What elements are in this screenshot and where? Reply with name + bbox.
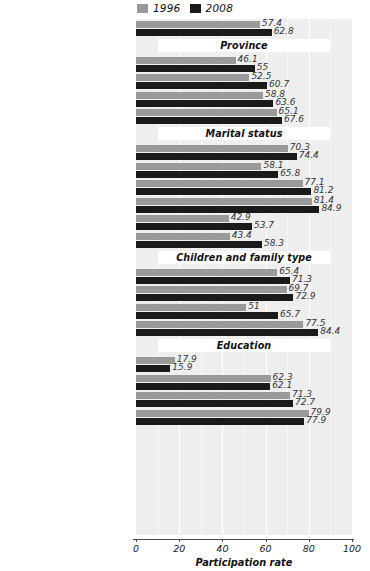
axis-tick-label: 20 <box>173 543 185 554</box>
legend-swatch-icon <box>190 4 201 13</box>
bar-row: Married, aged 45 and over42.953.7 <box>136 215 352 231</box>
section-header-box: Children and family type <box>158 251 330 264</box>
bar-1996 <box>136 269 277 276</box>
bar-row: Single, aged 25–4481.484.9 <box>136 198 352 214</box>
bar-value-label: 51 <box>248 303 259 310</box>
section-header-box: Province <box>158 39 330 52</box>
section-title: Education <box>217 340 272 351</box>
axis-tick <box>136 539 137 542</box>
bar-2008 <box>136 188 311 195</box>
bar-2008 <box>136 365 170 372</box>
bar-row: Single, aged 15–2458.165.8 <box>136 163 352 179</box>
bar-1996 <box>136 57 236 64</box>
section-header-box: Marital status <box>158 127 330 140</box>
bar-1996 <box>136 21 260 28</box>
legend-label: 1996 <box>153 2 181 14</box>
bar-value-label: 58.3 <box>264 240 284 247</box>
bar-value-label: 65.7 <box>280 311 300 318</box>
bar-row: College diploma/certificate71.372.7 <box>136 392 352 408</box>
bar-value-label: 74.4 <box>299 152 319 159</box>
bar-1996 <box>136 163 261 170</box>
axis-tick-label: 80 <box>303 543 315 554</box>
section-header-band: Education <box>136 339 352 352</box>
bar-value-label: 72.7 <box>295 399 315 406</box>
axis-tick <box>352 539 353 542</box>
bar-1996 <box>136 375 271 382</box>
chart-legend: 19962008 <box>0 1 370 15</box>
bar-1996 <box>136 410 309 417</box>
bar-1996 <box>136 321 303 328</box>
bar-2008 <box>136 206 319 213</box>
legend-entry-1996: 1996 <box>137 2 181 14</box>
bar-2008 <box>136 82 267 89</box>
bar-1996 <box>136 198 312 205</box>
bar-1996 <box>136 233 230 240</box>
bar-2008 <box>136 65 255 72</box>
bar-row: Married, aged 15–2470.374.4 <box>136 145 352 161</box>
axis-tick-label: 60 <box>260 543 272 554</box>
section-title: Marital status <box>205 128 282 139</box>
bar-row: New Brunswick52.560.7 <box>136 74 352 90</box>
bar-1996 <box>136 145 288 152</box>
section-title: Province <box>220 40 267 51</box>
participation-rate-chart: 19962008 All women 15 years and over57.4… <box>0 0 370 571</box>
bar-1996 <box>136 180 303 187</box>
bar-1996 <box>136 74 249 81</box>
bar-row: Children 6–1577.584.4 <box>136 321 352 337</box>
axis-tick-label: 40 <box>216 543 228 554</box>
bar-2008 <box>136 153 297 160</box>
bar-2008 <box>136 329 318 336</box>
bar-value-label: 81.2 <box>313 187 333 194</box>
bar-value-label: 43.4 <box>232 232 252 239</box>
section-header-box: Education <box>158 339 330 352</box>
legend-entry-2008: 2008 <box>190 2 234 14</box>
section-header-band: Children and family type <box>136 251 352 264</box>
section-title: Children and family type <box>176 252 312 263</box>
bar-value-label: 15.9 <box>172 364 192 371</box>
bar-value-label: 46.1 <box>238 56 258 63</box>
axis-tick <box>309 539 310 542</box>
section-header-band: Marital status <box>136 127 352 140</box>
bar-row: Preschooler(s)/employed husband69.772.9 <box>136 286 352 302</box>
plot-area: All women 15 years and over57.462.8Provi… <box>136 19 352 535</box>
bar-value-label: 55 <box>257 64 268 71</box>
bar-2008 <box>136 277 290 284</box>
bar-2008 <box>136 117 282 124</box>
bar-value-label: 84.4 <box>320 328 340 335</box>
bar-2008 <box>136 294 293 301</box>
bar-1996 <box>136 286 287 293</box>
bar-row: High-school diploma62.362.1 <box>136 375 352 391</box>
gridline <box>352 19 353 535</box>
bar-row: 0–8 years’ education17.915.9 <box>136 357 352 373</box>
bar-row: Newfoundland and Labrador46.155 <box>136 57 352 73</box>
bar-row: Alberta65.167.6 <box>136 109 352 125</box>
bar-row: Single, aged 45 and over43.458.3 <box>136 233 352 249</box>
axis-tick-label: 100 <box>343 543 361 554</box>
bar-2008 <box>136 383 270 390</box>
bar-value-label: 60.7 <box>269 81 289 88</box>
bar-row: All women 15 years and over57.462.8 <box>136 21 352 37</box>
bar-1996 <box>136 357 175 364</box>
bar-row: Preschooler(s)/lone parent5165.7 <box>136 304 352 320</box>
bar-row: Married, aged 25–4477.181.2 <box>136 180 352 196</box>
x-axis-line <box>133 539 354 540</box>
section-header-band: Province <box>136 39 352 52</box>
bar-value-label: 42.9 <box>231 214 251 221</box>
bar-value-label: 63.6 <box>275 99 295 106</box>
bar-value-label: 72.9 <box>295 293 315 300</box>
bar-1996 <box>136 92 263 99</box>
bar-1996 <box>136 109 277 116</box>
bar-1996 <box>136 215 229 222</box>
axis-tick <box>179 539 180 542</box>
bar-2008 <box>136 312 278 319</box>
bar-value-label: 77.9 <box>306 417 326 424</box>
legend-swatch-icon <box>137 4 148 13</box>
axis-tick <box>266 539 267 542</box>
bar-2008 <box>136 29 272 36</box>
bar-row: University degree79.977.9 <box>136 410 352 426</box>
bar-value-label: 71.3 <box>292 276 312 283</box>
bar-2008 <box>136 400 293 407</box>
legend-label: 2008 <box>206 2 234 14</box>
bar-2008 <box>136 171 278 178</box>
axis-tick-label: 0 <box>133 543 139 554</box>
